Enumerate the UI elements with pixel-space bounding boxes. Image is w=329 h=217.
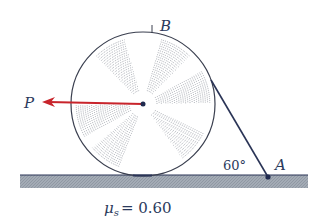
center-pin	[141, 102, 146, 107]
friction-coefficient: μs= 0.60	[104, 199, 172, 217]
angle-label: 60°	[223, 158, 246, 173]
cylinder-diagram: P B A 60° μs= 0.60	[0, 0, 329, 217]
force-label: P	[23, 94, 35, 112]
point-a	[265, 174, 270, 179]
point-a-label: A	[273, 156, 286, 174]
point-b-label: B	[159, 17, 171, 35]
force-p-arrow	[42, 97, 143, 107]
ground	[20, 175, 308, 188]
